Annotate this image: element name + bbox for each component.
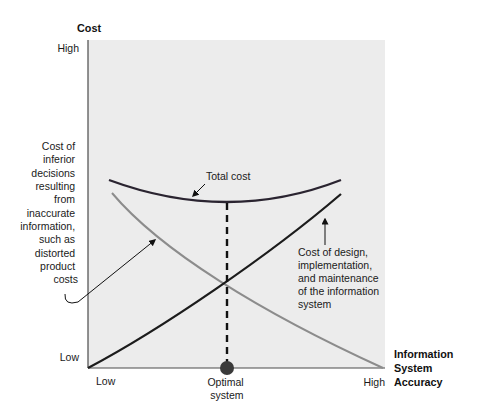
y-tick-low: Low: [60, 351, 80, 363]
x-tick-high: High: [363, 376, 385, 388]
y-axis-title: Cost: [77, 22, 101, 34]
cost-accuracy-chart: Cost High Low Low High Optimal system In…: [0, 0, 477, 418]
optimal-point-dot: [220, 361, 234, 375]
y-tick-high: High: [57, 42, 79, 54]
inferior-decisions-cost-label: Cost of inferior decisions resulting fro…: [20, 140, 78, 285]
total-cost-label: Total cost: [206, 170, 250, 182]
x-tick-low: Low: [96, 375, 116, 387]
plot-area: [88, 40, 385, 368]
x-axis-title: Information System Accuracy: [394, 348, 456, 388]
x-tick-optimal-system: Optimal system: [207, 376, 246, 401]
